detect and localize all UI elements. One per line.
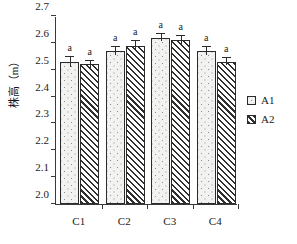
error-bar-cap: [176, 35, 185, 36]
plot-area: 2.02.12.22.32.42.52.62.7 aaC1aaC2aaC3aaC…: [55, 17, 237, 205]
y-tick-label: 2.3: [35, 108, 49, 118]
significance-label: a: [60, 43, 80, 53]
bar-c4-a2: [217, 62, 236, 204]
chart-legend: A1A2: [247, 93, 274, 131]
legend-swatch-a2: [247, 115, 256, 124]
error-bar-cap: [65, 56, 74, 57]
y-axis-title: 株高（m）: [5, 39, 21, 125]
bar-chart: 株高（m） 2.02.12.22.32.42.52.62.7 aaC1aaC2a…: [0, 0, 297, 244]
significance-label: a: [196, 33, 216, 43]
error-bar-cap: [131, 40, 140, 41]
y-tick-label: 2.0: [35, 189, 49, 199]
bar-c2-a2: [126, 46, 145, 204]
y-tick-label: 2.2: [35, 135, 49, 145]
error-bar: [181, 36, 182, 44]
legend-label: A1: [261, 95, 274, 106]
bar-group: aaC4: [193, 17, 239, 204]
error-bar: [206, 47, 207, 55]
bar-c4-a1: [197, 51, 216, 204]
significance-label: a: [125, 27, 145, 37]
y-tick-label: 2.1: [35, 162, 49, 172]
error-bar-cap: [111, 46, 120, 47]
error-bar-cap: [156, 33, 165, 34]
y-tick-label: 2.6: [35, 28, 49, 38]
error-bar-cap: [222, 57, 231, 58]
x-tick: [238, 204, 239, 209]
y-tick-label: 2.7: [35, 1, 49, 11]
significance-label: a: [80, 47, 100, 57]
error-bar: [161, 34, 162, 42]
legend-item-a2: A2: [247, 112, 274, 126]
y-tick-label: 2.4: [35, 82, 49, 92]
bar-group: aaC3: [147, 17, 193, 204]
error-bar-cap: [85, 60, 94, 61]
significance-label: a: [151, 20, 171, 30]
error-bar: [135, 41, 136, 51]
bar-c1-a2: [80, 64, 99, 204]
error-bar: [226, 58, 227, 66]
bar-c3-a2: [171, 40, 190, 204]
y-tick-label: 2.5: [35, 55, 49, 65]
error-bar: [115, 47, 116, 55]
bar-c1-a1: [60, 62, 79, 204]
y-tick: [51, 15, 56, 16]
x-tick: [147, 204, 148, 209]
x-tick-label: C4: [185, 215, 245, 227]
bar-c2-a1: [106, 51, 125, 204]
significance-label: a: [216, 44, 236, 54]
legend-label: A2: [261, 114, 274, 125]
error-bar: [70, 57, 71, 67]
legend-item-a1: A1: [247, 93, 274, 107]
significance-label: a: [105, 33, 125, 43]
bar-c3-a1: [151, 38, 170, 205]
bar-group: aaC2: [102, 17, 148, 204]
bar-group: aaC1: [56, 17, 102, 204]
x-tick: [193, 204, 194, 209]
error-bar: [90, 61, 91, 69]
significance-label: a: [171, 22, 191, 32]
legend-swatch-a1: [247, 96, 256, 105]
x-tick: [102, 204, 103, 209]
error-bar-cap: [202, 46, 211, 47]
